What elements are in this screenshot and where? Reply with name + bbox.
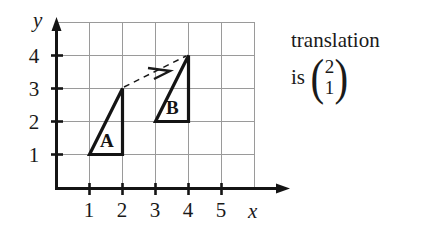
x-tick-label-3: 3 xyxy=(144,200,166,221)
vector-open-paren: ( xyxy=(311,57,325,97)
vector-component-y: 1 xyxy=(325,77,335,98)
y-axis-arrowhead xyxy=(52,17,62,31)
x-axis-label: x xyxy=(248,201,257,222)
column-vector: ( 2 1 ) xyxy=(309,53,350,101)
annotation-block: translation is ( 2 1 ) xyxy=(291,28,435,101)
shape-label-a: A xyxy=(100,131,114,150)
x-tick-label-4: 4 xyxy=(177,200,199,221)
y-tick-label-3: 3 xyxy=(23,79,45,100)
vector-component-x: 2 xyxy=(325,56,335,77)
y-tick-label-2: 2 xyxy=(23,112,45,133)
vector-components: 2 1 xyxy=(325,56,335,98)
x-tick-label-2: 2 xyxy=(111,200,133,221)
translation-arrowhead xyxy=(148,68,170,79)
vector-close-paren: ) xyxy=(335,57,349,97)
x-axis-arrowhead xyxy=(276,184,290,194)
y-tick-label-4: 4 xyxy=(23,46,45,67)
annotation-vector-line: is ( 2 1 ) xyxy=(291,53,435,101)
shape-label-b: B xyxy=(166,98,179,117)
x-tick-label-5: 5 xyxy=(210,200,232,221)
y-tick-label-1: 1 xyxy=(23,145,45,166)
translation-diagram-figure: 4 3 2 1 y 1 2 3 4 5 x A B translation is… xyxy=(0,0,435,235)
annotation-is-text: is xyxy=(291,67,305,88)
x-tick-label-1: 1 xyxy=(78,200,100,221)
y-axis-label: y xyxy=(33,10,42,31)
